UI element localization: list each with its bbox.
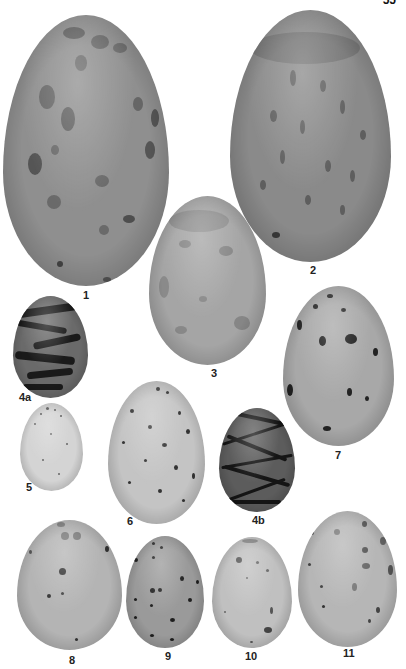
egg-6-photo bbox=[108, 381, 205, 524]
egg-7-label: 7 bbox=[335, 450, 341, 461]
egg-6-label: 6 bbox=[127, 516, 133, 527]
egg-9-label: 9 bbox=[165, 651, 171, 662]
egg-5-photo bbox=[20, 403, 83, 491]
egg-4b-label: 4b bbox=[252, 515, 265, 526]
egg-8-label: 8 bbox=[69, 655, 75, 666]
egg-3-label: 3 bbox=[211, 368, 217, 379]
egg-4a-photo bbox=[13, 296, 88, 398]
egg-2-photo bbox=[230, 10, 391, 262]
egg-1-photo bbox=[3, 15, 169, 286]
egg-8-photo bbox=[17, 520, 122, 650]
egg-10-photo bbox=[212, 537, 292, 648]
egg-5-label: 5 bbox=[26, 482, 32, 493]
egg-7-photo bbox=[283, 286, 394, 446]
egg-9-photo bbox=[126, 536, 204, 648]
egg-4b-photo bbox=[219, 408, 295, 512]
page-number: 55 bbox=[383, 0, 396, 7]
egg-2-label: 2 bbox=[310, 265, 316, 276]
egg-10-label: 10 bbox=[245, 651, 257, 662]
egg-11-photo bbox=[298, 511, 397, 647]
egg-4a-label: 4a bbox=[19, 392, 31, 403]
egg-11-label: 11 bbox=[343, 648, 355, 659]
egg-1-label: 1 bbox=[83, 290, 89, 301]
